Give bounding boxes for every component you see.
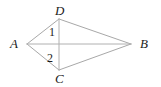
angle-label-2: 2 [47, 52, 53, 64]
vertex-label-b: B [140, 37, 148, 50]
vertex-label-a: A [10, 37, 18, 50]
side-CA-line [27, 44, 59, 70]
geometry-figure: D C A B 1 2 [0, 0, 161, 87]
vertex-label-c: C [55, 72, 64, 85]
side-BC-line [59, 44, 131, 70]
kite-diagram-svg [0, 0, 161, 87]
vertex-label-d: D [55, 4, 64, 17]
side-DB-line [59, 19, 131, 44]
angle-label-1: 1 [49, 26, 55, 38]
